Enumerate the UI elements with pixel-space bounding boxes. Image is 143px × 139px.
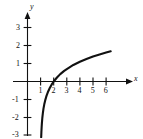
y-axis-label: y xyxy=(30,3,34,11)
x-axis xyxy=(13,79,133,85)
y-tick-label-neg1: -1 xyxy=(12,96,19,104)
x-tick-label-3: 3 xyxy=(65,87,69,95)
x-tick-label-4: 4 xyxy=(78,87,82,95)
y-tick-label-1: 1 xyxy=(16,60,20,68)
y-tick-label-3: 3 xyxy=(16,24,20,32)
y-tick-label-2: 2 xyxy=(16,42,20,50)
x-tick-label-2: 2 xyxy=(51,87,55,95)
x-axis-label: x xyxy=(134,75,138,83)
x-tick-label-1: 1 xyxy=(39,87,43,95)
y-tick-label-neg3: -3 xyxy=(12,131,19,139)
graph-figure: 1 2 3 4 5 6 3 2 1 -1 -2 -3 x y xyxy=(0,0,143,138)
y-tick-label-neg2: -2 xyxy=(12,114,19,122)
plot-canvas xyxy=(0,0,143,138)
x-tick-label-5: 5 xyxy=(91,87,95,95)
x-tick-label-6: 6 xyxy=(104,87,108,95)
